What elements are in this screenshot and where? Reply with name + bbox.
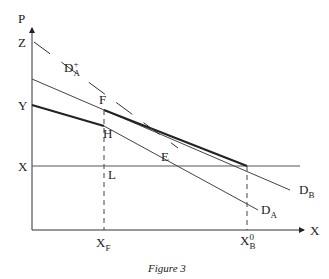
point-l: L	[108, 168, 116, 181]
figure-caption: Figure 3	[148, 262, 186, 274]
diagram-canvas	[0, 0, 329, 279]
label-da-plus: D+A	[64, 60, 80, 78]
point-f: F	[99, 93, 106, 106]
y-axis-label: P	[18, 12, 25, 25]
point-h: H	[103, 127, 112, 140]
tick-xf: XF	[96, 236, 110, 249]
thick-segment-yh	[32, 105, 104, 126]
label-x: X	[18, 160, 27, 173]
label-y: Y	[18, 99, 27, 112]
demand-curve-db	[32, 79, 290, 190]
demand-curve-da	[104, 126, 258, 210]
label-db: DB	[299, 183, 314, 196]
label-z: Z	[18, 36, 26, 49]
tick-xb0: X0B	[240, 233, 255, 251]
point-e: E	[161, 150, 169, 163]
x-axis-label: X	[310, 224, 319, 237]
label-da: DA	[261, 203, 277, 216]
